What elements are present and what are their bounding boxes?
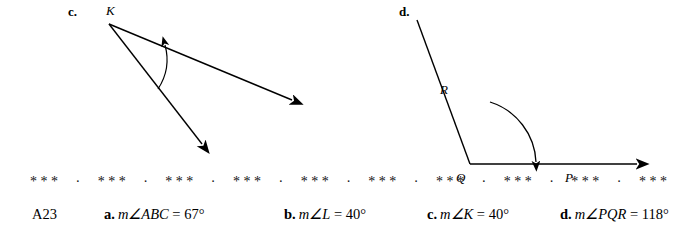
figure-d: d. R Q P [395, 4, 675, 194]
answer-d-tag: d. [560, 206, 572, 222]
answer-key-row: A23 a.m∠ABC = 67° b.m∠L = 40° c.m∠K = 40… [32, 206, 672, 228]
answer-item-d: d.m∠PQR = 118° [560, 206, 669, 223]
angle-arc-PQR [490, 102, 536, 162]
figure-c-label: c. [68, 4, 77, 20]
figure-d-label: d. [399, 4, 409, 20]
answer-d-expr: m∠PQR [575, 206, 627, 222]
figure-d-drawing [395, 4, 675, 194]
answer-b-expr: m∠L [299, 206, 331, 222]
angle-arc-K [158, 45, 167, 89]
answer-item-c: c.m∠K = 40° [427, 206, 509, 223]
decorative-separator: * * * · * * * · * * * · * * * · * * * · … [30, 174, 670, 192]
answer-c-tag: c. [427, 206, 437, 222]
answer-code: A23 [32, 206, 57, 223]
point-label-K: K [106, 3, 115, 19]
worksheet-page: c. K [0, 0, 687, 242]
figure-c: c. K [60, 4, 360, 164]
answer-item-a: a.m∠ABC = 67° [104, 206, 204, 223]
answer-a-value: = 67° [172, 206, 204, 222]
answer-d-value: = 118° [630, 206, 669, 222]
ray-K-lower [109, 24, 202, 144]
answer-item-b: b.m∠L = 40° [284, 206, 366, 223]
point-label-R: R [440, 82, 448, 98]
ray-K-upper [109, 24, 292, 100]
answer-b-tag: b. [284, 206, 296, 222]
figure-c-drawing [60, 4, 360, 164]
answer-a-tag: a. [104, 206, 115, 222]
answer-a-expr: m∠ABC [118, 206, 169, 222]
answer-b-value: = 40° [334, 206, 366, 222]
answer-c-value: = 40° [477, 206, 509, 222]
answer-c-expr: m∠K [440, 206, 473, 222]
